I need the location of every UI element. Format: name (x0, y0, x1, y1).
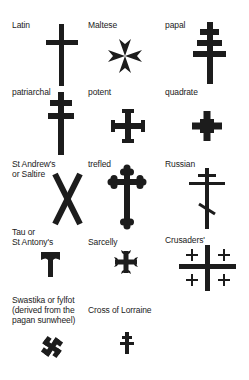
quadrate-cross-icon (192, 111, 222, 141)
potent-cross-icon (111, 109, 145, 143)
tau-cross-icon (41, 252, 60, 277)
lorraine-cross-icon (120, 332, 134, 354)
latin-cross-icon (46, 24, 78, 86)
sarcelly-cross-icon (114, 250, 138, 274)
trefled-cross-icon (108, 165, 147, 230)
swastika-icon (38, 333, 66, 361)
saltire-cross-icon (55, 174, 80, 224)
patriarchal-cross-icon (48, 92, 74, 155)
maltese-cross-icon (108, 39, 142, 73)
papal-cross-icon (193, 22, 226, 84)
cross-symbols (0, 0, 249, 380)
russian-cross-icon (189, 168, 225, 229)
crusaders-cross-icon (179, 245, 236, 291)
